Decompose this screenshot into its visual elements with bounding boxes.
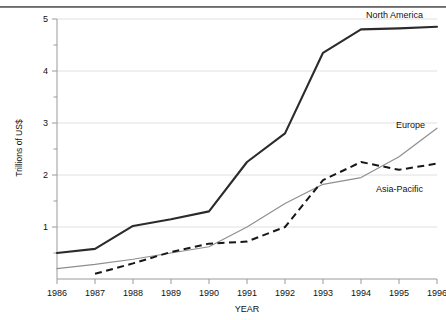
series-line-europe	[57, 128, 437, 268]
gridlines-group	[57, 19, 437, 227]
y-tick-label: 5	[43, 14, 48, 24]
y-axis-title: Trillions of US$	[14, 119, 24, 177]
chart-svg: 12345 1986198719881989199019911992199319…	[0, 0, 446, 320]
x-tick-label: 1994	[351, 288, 371, 298]
y-tick-label: 3	[43, 118, 48, 128]
x-tick-label: 1992	[275, 288, 295, 298]
y-tick-label: 4	[43, 66, 48, 76]
x-axis-title: YEAR	[235, 304, 260, 314]
series-label-asia-pacific: Asia-Pacific	[376, 184, 424, 194]
series-label-europe: Europe	[396, 120, 425, 130]
x-tick-labels-group: 1986198719881989199019911992199319941995…	[47, 288, 446, 298]
y-tick-label: 2	[43, 170, 48, 180]
series-label-north-america: North America	[366, 10, 423, 20]
x-tick-label: 1987	[85, 288, 105, 298]
x-tick-label: 1988	[123, 288, 143, 298]
x-tick-label: 1990	[199, 288, 219, 298]
x-tick-label: 1995	[389, 288, 409, 298]
minor-ticks-group	[54, 45, 58, 253]
x-ticks-group	[57, 279, 437, 284]
x-tick-label: 1986	[47, 288, 67, 298]
series-line-north-america	[57, 27, 437, 253]
line-chart-figure: 12345 1986198719881989199019911992199319…	[0, 0, 446, 320]
x-tick-label: 1996	[427, 288, 446, 298]
x-tick-label: 1993	[313, 288, 333, 298]
y-tick-label: 1	[43, 222, 48, 232]
y-tick-labels-group: 12345	[43, 14, 48, 232]
major-y-ticks-group	[52, 19, 57, 227]
x-tick-label: 1989	[161, 288, 181, 298]
x-tick-label: 1991	[237, 288, 257, 298]
